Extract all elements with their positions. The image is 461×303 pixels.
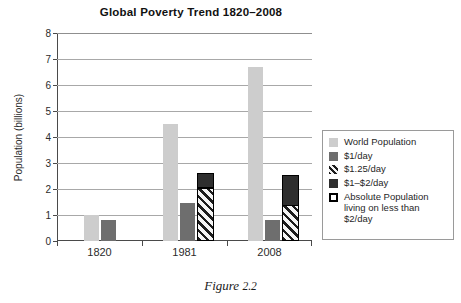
bar-dollar-per-day [265,220,280,241]
y-axis-title-label: Population (billions) [14,93,25,180]
y-tick-label: 5 [45,106,51,117]
y-tick-mark [53,137,57,138]
gridline [57,137,312,138]
y-tick-label: 2 [45,184,51,195]
x-tick-label: 2008 [257,246,281,258]
bar-segment-divider [283,205,298,206]
y-tick-label: 6 [45,80,51,91]
y-tick-mark [53,85,57,86]
y-tick-mark [53,215,57,216]
y-tick-mark [53,163,57,164]
legend-item[interactable]: $1–$2/day [329,177,448,188]
bar-segment-divider [198,187,213,188]
chart-title: Global Poverty Trend 1820–2008 [60,6,322,18]
legend-item[interactable]: World Population [329,136,448,147]
y-tick-mark [53,189,57,190]
figure-container: Global Poverty Trend 1820–2008 Populatio… [0,0,461,303]
y-tick-mark [53,111,57,112]
y-tick-mark [53,59,57,60]
legend-item[interactable]: Absolute Population living on less than … [329,191,448,225]
bar-dollar-per-day [101,220,116,241]
bar-segment-125-per-day [198,189,213,240]
gridline [57,59,312,60]
x-tick-label: 1981 [172,246,196,258]
gridline [57,163,312,164]
legend-swatch-dollar-per-day [329,152,338,161]
y-tick-label: 7 [45,54,51,65]
x-tick-mark [142,241,143,246]
y-tick-mark [53,33,57,34]
chart-legend: World Population$1/day$1.25/day$1–$2/day… [322,130,454,240]
legend-item-label: $1–$2/day [344,177,388,188]
gridline [57,189,312,190]
bar-world-population [163,124,178,241]
y-tick-label: 8 [45,28,51,39]
legend-swatch-absolute-population [329,193,338,202]
bar-dollar-per-day [180,203,195,241]
legend-item[interactable]: $1/day [329,150,448,161]
legend-item-label: $1/day [344,150,373,161]
legend-item-label: $1.25/day [344,163,386,174]
gridline [57,111,312,112]
figure-caption-number: 2.2 [242,280,256,292]
y-tick-label: 0 [45,236,51,247]
x-tick-mark [311,241,312,246]
bar-absolute-population-stacked [282,175,299,241]
bar-world-population [84,215,99,241]
legend-swatch-125-per-day [329,165,338,174]
x-tick-label: 1820 [87,246,111,258]
y-tick-label: 4 [45,132,51,143]
bar-absolute-population-stacked [197,173,214,241]
legend-swatch-world-population [329,138,338,147]
legend-item-label: Absolute Population living on less than … [344,191,448,225]
x-tick-mark [57,241,58,246]
figure-caption: Figure 2.2 [0,278,461,294]
y-tick-label: 3 [45,158,51,169]
gridline [57,85,312,86]
legend-swatch-one-two-per-day [329,179,338,188]
x-tick-mark [227,241,228,246]
bar-world-population [248,67,263,241]
gridline [57,33,312,34]
legend-item-label: World Population [344,136,416,147]
figure-caption-prefix: Figure [204,278,239,293]
plot-area: 012345678 [57,33,312,241]
bar-segment-125-per-day [283,206,298,240]
legend-item[interactable]: $1.25/day [329,163,448,174]
y-axis-title: Population (billions) [12,33,26,241]
y-tick-label: 1 [45,210,51,221]
